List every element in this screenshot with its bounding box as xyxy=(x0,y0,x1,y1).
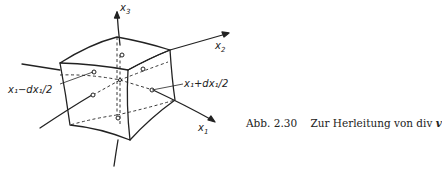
figure-caption: Abb. 2.30 Zur Herleitung von div v xyxy=(246,117,442,129)
cube-right-face xyxy=(128,50,175,140)
x2-axis-back xyxy=(22,64,60,70)
x2-axis-label: x2 xyxy=(215,40,225,54)
point-top xyxy=(120,53,124,57)
leader-left xyxy=(60,72,93,84)
x1-arrow-icon xyxy=(208,116,215,122)
caption-text: Zur Herleitung von div xyxy=(310,117,432,129)
left-face-label: x₁−dx₁/2 xyxy=(8,84,52,95)
right-face-label: x₁+dx₁/2 xyxy=(184,78,228,89)
vector-symbol: v xyxy=(436,117,442,129)
point-bottom xyxy=(116,116,120,120)
point-center xyxy=(119,79,122,82)
x1-axis xyxy=(153,90,212,120)
leader-right xyxy=(152,84,183,90)
x3-axis-bottom xyxy=(114,140,118,166)
x3-arrow-icon xyxy=(115,12,120,18)
point-left xyxy=(91,93,95,97)
point-right-back xyxy=(141,67,145,71)
x3-axis-label: x3 xyxy=(120,2,130,16)
cube-top-face xyxy=(60,37,170,70)
cube-front-face xyxy=(60,63,130,140)
figure-number: Abb. 2.30 xyxy=(246,117,297,129)
x1-axis-label: x1 xyxy=(198,122,208,136)
x2-arrow-icon xyxy=(222,32,229,37)
